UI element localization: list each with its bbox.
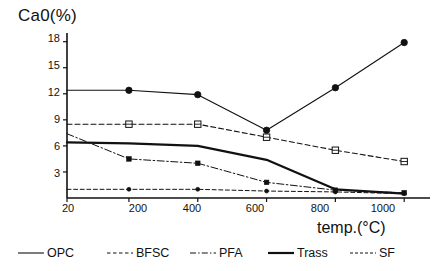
legend-swatch-bfsc [107,248,133,258]
legend-item-pfa: PFA [190,243,243,263]
chart-legend: OPC BFSC PFA Trass SF [0,243,439,265]
chart-plot-area [0,0,439,271]
series-opc [67,39,407,133]
legend-label-pfa: PFA [219,246,243,260]
chart-figure: Ca0(%) temp.(°C) 18 15 12 9 6 3 20 200 4… [0,0,439,271]
legend-label-sf: SF [379,246,395,260]
legend-swatch-opc [18,248,44,258]
legend-item-sf: SF [350,243,395,263]
legend-item-opc: OPC [18,243,74,263]
legend-item-trass: Trass [268,243,328,263]
legend-swatch-pfa [190,248,216,258]
legend-item-bfsc: BFSC [107,243,169,263]
legend-label-bfsc: BFSC [136,246,169,260]
legend-swatch-trass [268,248,294,258]
data-series-layer [67,39,407,195]
legend-label-trass: Trass [297,246,328,260]
series-trass [67,142,404,193]
legend-swatch-sf [350,248,376,258]
legend-label-opc: OPC [47,246,74,260]
